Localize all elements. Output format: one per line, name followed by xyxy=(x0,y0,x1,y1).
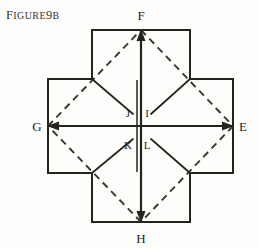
vertex-label-j: J xyxy=(126,107,131,119)
vertex-label-k: K xyxy=(124,139,132,151)
vertex-label-e: E xyxy=(239,119,247,134)
vertex-label-l: L xyxy=(144,139,151,151)
fold-line-bottom-right xyxy=(151,139,190,173)
cross-net-diagram: F E H G J I K L xyxy=(0,0,259,248)
vertex-label-g: G xyxy=(32,119,41,134)
vertex-label-i: I xyxy=(145,107,149,119)
figure-container: FIGURE9B F E H G xyxy=(0,0,259,248)
fold-line-top-right xyxy=(151,79,190,114)
axis-group xyxy=(48,30,233,222)
vertex-label-h: H xyxy=(136,231,145,246)
vertex-label-f: F xyxy=(137,8,144,23)
